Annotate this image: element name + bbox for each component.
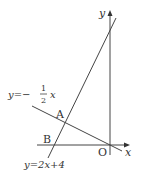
- equation-label-2x-plus-4: y=2x+4: [23, 159, 65, 170]
- point-a-label: A: [55, 108, 65, 121]
- y-axis-arrow-icon: [108, 10, 113, 16]
- coordinate-diagram: y x O A B y=− 1 2 x y=2x+4: [0, 0, 141, 183]
- equation-prefix: y=−: [7, 89, 30, 100]
- point-b-label: B: [43, 133, 51, 146]
- equation-label-neg-half-x: y=− 1 2 x: [7, 84, 56, 105]
- line-y-2x-plus-4: [48, 18, 116, 158]
- fraction-denominator: 2: [41, 96, 46, 105]
- equation-suffix: x: [50, 89, 56, 100]
- origin-label: O: [98, 146, 107, 159]
- x-axis-label: x: [125, 146, 132, 159]
- y-axis: [108, 10, 113, 155]
- fraction-numerator: 1: [41, 84, 46, 93]
- y-axis-label: y: [98, 7, 106, 20]
